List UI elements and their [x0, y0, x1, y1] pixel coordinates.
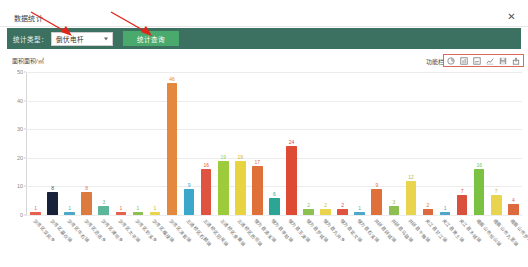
y-axis-tick-label: 30: [17, 126, 23, 132]
bar-value-label: 2: [427, 203, 430, 208]
bar[interactable]: [423, 209, 434, 215]
bar-value-label: 9: [375, 183, 378, 188]
x-axis-label-slot: 井研县研城镇: [368, 216, 385, 267]
bar-value-label: 6: [273, 192, 276, 197]
bar-chart: 01020304050 1818311146916191917624222193…: [0, 68, 528, 267]
y-axis-tick-mark: [24, 100, 26, 101]
bar-value-label: 1: [154, 206, 157, 211]
line-chart-icon[interactable]: [485, 56, 495, 66]
bar-value-label: 19: [238, 155, 244, 160]
chevron-down-icon: [104, 37, 108, 40]
y-axis-tick-label: 40: [17, 98, 23, 104]
bar-slot: 2: [419, 72, 436, 215]
bar[interactable]: [47, 192, 58, 215]
bar-chart-icon[interactable]: [459, 56, 469, 66]
function-icon-bar: [443, 54, 524, 67]
bar-value-label: 7: [495, 189, 498, 194]
bar-value-label: 2: [324, 203, 327, 208]
bar-value-label: 3: [102, 200, 105, 205]
bar[interactable]: [474, 169, 485, 215]
bar-slot: 46: [164, 72, 181, 215]
bar-slot: 2: [317, 72, 334, 215]
x-axis-label-slot: 夹江县木城镇: [454, 216, 471, 267]
bar[interactable]: [218, 161, 229, 215]
bar[interactable]: [491, 195, 502, 215]
statistics-toolbar: 统计类型： 倒伏电杆 统计查询: [7, 28, 521, 49]
bar-value-label: 3: [392, 200, 395, 205]
y-axis-tick-mark: [24, 186, 26, 187]
bar[interactable]: [252, 166, 263, 215]
bar-slot: 8: [78, 72, 95, 215]
data-statistics-dialog: 数据统计 ✕ 统计类型： 倒伏电杆 统计查询 面积面积/㎡ 功能栏: [0, 0, 528, 267]
bar-value-label: 12: [408, 175, 414, 180]
bar-slot: 1: [146, 72, 163, 215]
x-axis-label-slot: 沙湾区谭坝乡: [95, 216, 112, 267]
bar[interactable]: [320, 209, 331, 215]
bar-value-label: 1: [34, 206, 37, 211]
bar-slot: 9: [368, 72, 385, 215]
x-axis-label-slot: 沙湾区福禄镇: [146, 216, 163, 267]
bar-slot: 1: [27, 72, 44, 215]
query-button[interactable]: 统计查询: [123, 31, 179, 46]
bar[interactable]: [371, 189, 382, 215]
bar-slot: 16: [471, 72, 488, 215]
bar[interactable]: [337, 209, 348, 215]
bar-slot: 4: [505, 72, 522, 215]
bar[interactable]: [286, 146, 297, 215]
bar[interactable]: [184, 189, 195, 215]
bar-slot: 12: [402, 72, 419, 215]
x-axis-label-slot: 犍为县定文镇: [334, 216, 351, 267]
y-axis-tick-label: 10: [17, 183, 23, 189]
bar[interactable]: [389, 206, 400, 215]
bar[interactable]: [269, 198, 280, 215]
close-icon[interactable]: ✕: [506, 11, 517, 22]
x-axis-label-slot: 峨眉山市绥山镇: [471, 216, 488, 267]
bar-slot: 3: [95, 72, 112, 215]
bar[interactable]: [354, 212, 365, 215]
bar[interactable]: [440, 212, 451, 215]
bar-value-label: 1: [68, 206, 71, 211]
bar[interactable]: [406, 181, 417, 215]
bar-slot: 3: [385, 72, 402, 215]
bar-value-label: 8: [85, 186, 88, 191]
bar[interactable]: [508, 204, 519, 215]
bar[interactable]: [98, 206, 109, 215]
x-axis-label-slot: 夹江县甘江镇: [419, 216, 436, 267]
bar[interactable]: [116, 212, 127, 215]
export-icon[interactable]: [511, 56, 521, 66]
statistic-type-select[interactable]: 倒伏电杆: [51, 32, 113, 46]
bar[interactable]: [150, 212, 161, 215]
x-axis-label-slot: 沙湾区范店乡: [78, 216, 95, 267]
y-axis-tick-label: 0: [20, 212, 23, 218]
x-axis-label-slot: 夹江县黄土镇: [437, 216, 454, 267]
bar-slot: 1: [112, 72, 129, 215]
y-axis-title: 面积面积/㎡: [12, 56, 44, 65]
x-axis-label-slot: 犍为县清溪镇: [249, 216, 266, 267]
pie-chart-icon[interactable]: [446, 56, 456, 66]
bar-slot: 16: [198, 72, 215, 215]
y-axis-tick-label: 50: [17, 69, 23, 75]
bar[interactable]: [133, 212, 144, 215]
save-icon[interactable]: [498, 56, 508, 66]
bar-slot: 2: [300, 72, 317, 215]
bar[interactable]: [81, 192, 92, 215]
bar-value-label: 1: [119, 206, 122, 211]
bar[interactable]: [235, 161, 246, 215]
bar-slot: 1: [437, 72, 454, 215]
x-axis-label-slot: 峨眉山市罗目镇: [505, 216, 522, 267]
x-axis-tick-label: 峨眉山市罗目镇: [510, 218, 528, 247]
header-divider: [0, 26, 528, 27]
bar[interactable]: [30, 212, 41, 215]
bar[interactable]: [457, 195, 468, 215]
bar-slot: 1: [61, 72, 78, 215]
x-axis-label-slot: 峨眉山市九里镇: [488, 216, 505, 267]
bar-slot: 19: [215, 72, 232, 215]
bar-slot: 24: [283, 72, 300, 215]
bar[interactable]: [303, 209, 314, 215]
bar-value-label: 2: [341, 203, 344, 208]
y-axis-tick-mark: [24, 72, 26, 73]
bar[interactable]: [167, 83, 178, 215]
bar[interactable]: [64, 212, 75, 215]
bar[interactable]: [201, 169, 212, 215]
stacked-bar-icon[interactable]: [472, 56, 482, 66]
